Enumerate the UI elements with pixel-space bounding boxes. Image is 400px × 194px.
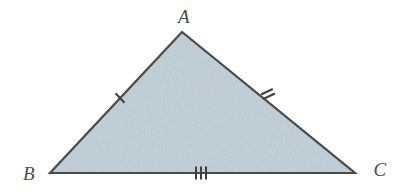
geometry-figure: ABC — [0, 0, 400, 194]
vertex-label-a: A — [176, 6, 190, 27]
triangle-body — [50, 32, 355, 173]
vertex-label-b: B — [23, 163, 35, 184]
triangle-diagram-canvas: ABC — [0, 0, 400, 194]
triangle-fill — [50, 32, 355, 173]
vertex-label-c: C — [374, 159, 387, 180]
tick-mark-ac-2 — [261, 89, 273, 94]
tick-mark-ac-1 — [263, 94, 275, 99]
